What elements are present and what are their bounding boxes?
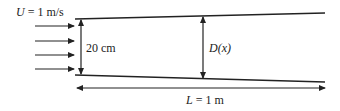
top-wall: [75, 13, 325, 19]
bottom-wall: [75, 75, 325, 82]
length-label: L = 1 m: [185, 93, 224, 107]
diameter-label: D(x): [208, 41, 231, 55]
inlet-velocity-label: U = 1 m/s: [16, 5, 64, 19]
diverging-channel-diagram: U = 1 m/s 20 cm D(x) L = 1 m: [0, 0, 340, 111]
inflow-arrows: [35, 26, 74, 69]
diagram-svg: U = 1 m/s 20 cm D(x) L = 1 m: [0, 0, 340, 111]
inlet-height-label: 20 cm: [86, 41, 116, 55]
